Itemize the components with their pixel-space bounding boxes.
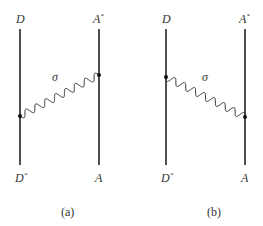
- label-bottom-left: D*: [160, 171, 174, 185]
- sigma-label: σ: [52, 70, 59, 84]
- panel-b: D A* D* A σ (b): [160, 12, 250, 219]
- label-bottom-left: D*: [14, 171, 28, 185]
- vertex-acceptor: [97, 73, 101, 77]
- caption-b: (b): [207, 205, 221, 219]
- feynman-diagram: D A* D* A σ (a) D A* D* A σ (b): [0, 0, 263, 226]
- panel-a: D A* D* A σ (a): [14, 12, 104, 219]
- photon-wave: [20, 73, 99, 118]
- label-top-left: D: [15, 12, 25, 26]
- label-bottom-right: A: [240, 171, 249, 185]
- label-bottom-right: A: [94, 171, 103, 185]
- sigma-label: σ: [202, 70, 209, 84]
- caption-a: (a): [61, 205, 74, 219]
- label-top-left: D: [161, 12, 171, 26]
- vertex-donor: [18, 114, 22, 118]
- vertex-acceptor: [243, 115, 247, 119]
- label-top-right: A*: [238, 12, 250, 26]
- label-top-right: A*: [92, 12, 104, 26]
- vertex-donor: [164, 75, 168, 79]
